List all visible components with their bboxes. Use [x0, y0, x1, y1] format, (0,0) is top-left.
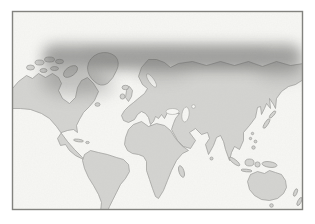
map-figure	[0, 0, 315, 224]
scan-grain-overlay	[13, 12, 303, 210]
world-map	[0, 0, 315, 224]
